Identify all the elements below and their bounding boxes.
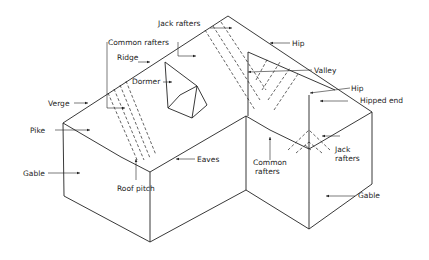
label-common-rafters-top: Common rafters xyxy=(108,38,169,47)
label-hip-right: Hip xyxy=(351,84,364,93)
house-outline xyxy=(63,16,372,242)
label-jack-rafters-top: Jack rafters xyxy=(157,19,200,28)
labels: Jack rafters Common rafters Ridge Dormer… xyxy=(23,19,403,200)
roof-diagram-svg: Jack rafters Common rafters Ridge Dormer… xyxy=(0,0,429,260)
label-common-rafters-bottom-1: Common xyxy=(253,158,287,167)
label-roof-pitch: Roof pitch xyxy=(117,184,155,193)
label-gable-left: Gable xyxy=(23,169,45,178)
label-valley: Valley xyxy=(314,66,337,75)
label-verge: Verge xyxy=(48,99,70,108)
label-pike: Pike xyxy=(30,126,46,135)
label-ridge: Ridge xyxy=(117,53,139,62)
label-jack-rafters-bottom-1: Jack xyxy=(334,145,351,154)
label-hip-top: Hip xyxy=(292,39,305,48)
label-eaves: Eaves xyxy=(197,155,219,164)
label-gable-right: Gable xyxy=(358,191,380,200)
label-common-rafters-bottom-2: rafters xyxy=(255,167,280,176)
label-jack-rafters-bottom-2: rafters xyxy=(335,154,360,163)
roof-diagram: Jack rafters Common rafters Ridge Dormer… xyxy=(0,0,429,260)
label-hipped-end: Hipped end xyxy=(360,96,403,105)
label-dormer: Dormer xyxy=(132,77,161,86)
